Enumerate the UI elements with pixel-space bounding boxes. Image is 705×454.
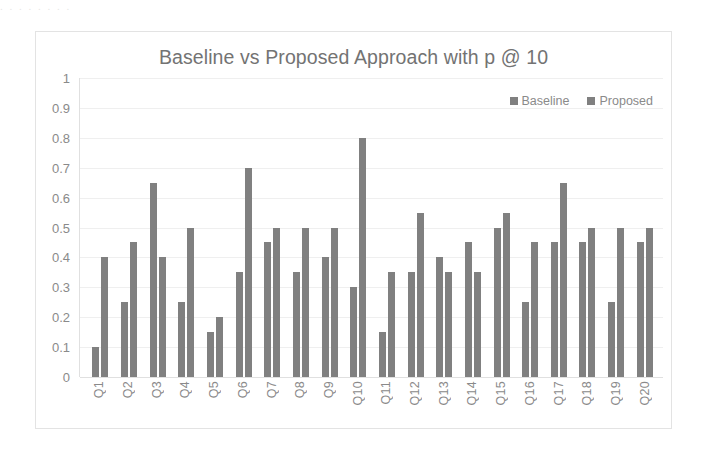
bar-group: [516, 78, 545, 377]
x-axis-tick: Q13: [429, 381, 458, 425]
bar-baseline: [207, 332, 214, 377]
x-axis-tick-label: Q9: [322, 381, 336, 398]
x-axis-tick: Q16: [516, 381, 545, 425]
x-axis-tick: Q5: [200, 381, 229, 425]
bar-baseline: [150, 183, 157, 377]
y-axis-tick-label: 0: [63, 370, 70, 385]
y-axis-tick-label: 0.6: [52, 190, 70, 205]
bar-proposed: [245, 168, 252, 377]
y-axis-tick-label: 1: [63, 71, 70, 86]
x-axis-tick-label: Q1: [92, 381, 106, 398]
x-axis-tick-label: Q16: [523, 381, 537, 406]
x-axis-tick-label: Q4: [178, 381, 192, 398]
chart-container: Baseline vs Proposed Approach with p @ 1…: [35, 31, 672, 429]
bar-group: [258, 78, 287, 377]
bar-proposed: [646, 228, 653, 378]
x-axis-tick: Q12: [401, 381, 430, 425]
y-axis-tick-label: 0.4: [52, 250, 70, 265]
bar-baseline: [293, 272, 300, 377]
bar-baseline: [436, 257, 443, 377]
chart-legend: BaselineProposed: [510, 94, 653, 108]
x-axis-tick: Q20: [630, 381, 659, 425]
bar-group: [401, 78, 430, 377]
bar-proposed: [130, 242, 137, 377]
x-axis-line: [80, 377, 663, 378]
bar-baseline: [121, 302, 128, 377]
bar-proposed: [216, 317, 223, 377]
bar-group: [630, 78, 659, 377]
bar-baseline: [236, 272, 243, 377]
x-axis-tick: Q18: [573, 381, 602, 425]
y-axis-tick-label: 0.2: [52, 310, 70, 325]
bar-proposed: [531, 242, 538, 377]
bar-baseline: [408, 272, 415, 377]
bar-group: [573, 78, 602, 377]
bar-baseline: [322, 257, 329, 377]
legend-entry: Baseline: [510, 94, 570, 108]
x-axis-tick: Q9: [315, 381, 344, 425]
bar-group: [602, 78, 631, 377]
bar-proposed: [503, 213, 510, 377]
bar-groups: [80, 78, 663, 377]
bar-group: [86, 78, 115, 377]
bar-group: [287, 78, 316, 377]
x-axis-tick-label: Q14: [465, 381, 479, 406]
bar-group: [201, 78, 230, 377]
x-axis-tick: Q15: [487, 381, 516, 425]
bar-baseline: [465, 242, 472, 377]
bar-baseline: [350, 287, 357, 377]
bar-proposed: [474, 272, 481, 377]
y-axis-tick-label: 0.5: [52, 220, 70, 235]
x-axis-tick: Q17: [544, 381, 573, 425]
legend-label: Baseline: [522, 94, 570, 108]
y-axis-tick-label: 0.8: [52, 130, 70, 145]
bar-baseline: [264, 242, 271, 377]
x-axis-tick: Q19: [602, 381, 631, 425]
bar-baseline: [637, 242, 644, 377]
legend-swatch-icon: [587, 97, 595, 105]
x-axis-tick: Q4: [171, 381, 200, 425]
y-axis-tick-label: 0.9: [52, 100, 70, 115]
x-axis-tick: Q2: [114, 381, 143, 425]
bar-group: [545, 78, 574, 377]
bar-proposed: [388, 272, 395, 377]
x-axis-tick-label: Q15: [494, 381, 508, 406]
bar-proposed: [187, 228, 194, 378]
bar-baseline: [522, 302, 529, 377]
x-axis-tick: Q3: [142, 381, 171, 425]
x-axis-tick-label: Q19: [609, 381, 623, 406]
bar-baseline: [551, 242, 558, 377]
x-axis-tick-label: Q20: [638, 381, 652, 406]
bar-proposed: [331, 228, 338, 378]
x-axis: Q1Q2Q3Q4Q5Q6Q7Q8Q9Q10Q11Q12Q13Q14Q15Q16Q…: [79, 381, 663, 425]
bar-baseline: [494, 228, 501, 378]
bar-proposed: [588, 228, 595, 378]
bar-group: [115, 78, 144, 377]
bar-group: [487, 78, 516, 377]
x-axis-tick-label: Q11: [379, 381, 393, 405]
bar-baseline: [178, 302, 185, 377]
legend-entry: Proposed: [587, 94, 653, 108]
x-axis-tick-label: Q5: [207, 381, 221, 398]
x-axis-tick-label: Q3: [150, 381, 164, 398]
bar-group: [315, 78, 344, 377]
bar-proposed: [159, 257, 166, 377]
x-axis-tick: Q6: [229, 381, 258, 425]
scan-bleed-artifact: . . . . . . . .: [0, 0, 705, 16]
bar-proposed: [560, 183, 567, 377]
x-axis-tick-label: Q7: [265, 381, 279, 398]
x-axis-tick-label: Q10: [351, 381, 365, 406]
bar-proposed: [273, 228, 280, 378]
bar-proposed: [417, 213, 424, 377]
bar-baseline: [608, 302, 615, 377]
bar-group: [172, 78, 201, 377]
bar-baseline: [579, 242, 586, 377]
x-axis-tick-label: Q17: [552, 381, 566, 406]
x-axis-tick: Q10: [343, 381, 372, 425]
x-axis-tick: Q1: [85, 381, 114, 425]
bar-baseline: [379, 332, 386, 377]
bar-baseline: [92, 347, 99, 377]
x-axis-tick-label: Q6: [236, 381, 250, 398]
legend-swatch-icon: [510, 97, 518, 105]
bar-group: [344, 78, 373, 377]
